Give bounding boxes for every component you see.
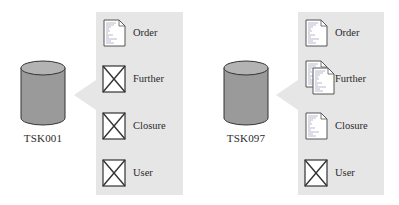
database-cylinder-icon xyxy=(20,60,66,126)
group-tsk097: TSK097 Order Further Closure User xyxy=(200,0,399,205)
callout-pointer xyxy=(276,80,298,110)
missing-image-icon xyxy=(102,159,126,187)
group-tsk001: TSK001 Order Further Closure User xyxy=(0,0,200,205)
list-item-order: Order xyxy=(304,19,384,47)
document-icon xyxy=(304,112,328,140)
list-item-further: Further xyxy=(102,65,182,93)
list-item-order: Order xyxy=(102,19,182,47)
item-label: User xyxy=(335,167,355,178)
list-item-closure: Closure xyxy=(102,112,182,140)
item-label: Order xyxy=(335,27,360,38)
missing-image-icon xyxy=(304,159,328,187)
multiple-documents-icon xyxy=(304,60,336,96)
document-icon xyxy=(102,19,126,47)
item-label: Closure xyxy=(133,120,166,131)
list-item-user: User xyxy=(102,159,182,187)
callout-panel: Order Further Closure User xyxy=(298,12,384,195)
callout-pointer xyxy=(74,80,96,110)
database-label: TSK001 xyxy=(13,132,73,144)
missing-image-icon xyxy=(102,112,126,140)
callout-panel: Order Further Closure User xyxy=(96,12,183,195)
database-label: TSK097 xyxy=(216,132,276,144)
item-label: Further xyxy=(335,73,366,84)
item-label: Order xyxy=(133,27,158,38)
item-label: Closure xyxy=(335,120,368,131)
item-label: Further xyxy=(133,73,164,84)
list-item-user: User xyxy=(304,159,384,187)
item-label: User xyxy=(133,167,153,178)
missing-image-icon xyxy=(102,65,126,93)
list-item-further: Further xyxy=(304,60,384,88)
document-icon xyxy=(304,19,328,47)
list-item-closure: Closure xyxy=(304,112,384,140)
database-cylinder-icon xyxy=(223,60,269,126)
